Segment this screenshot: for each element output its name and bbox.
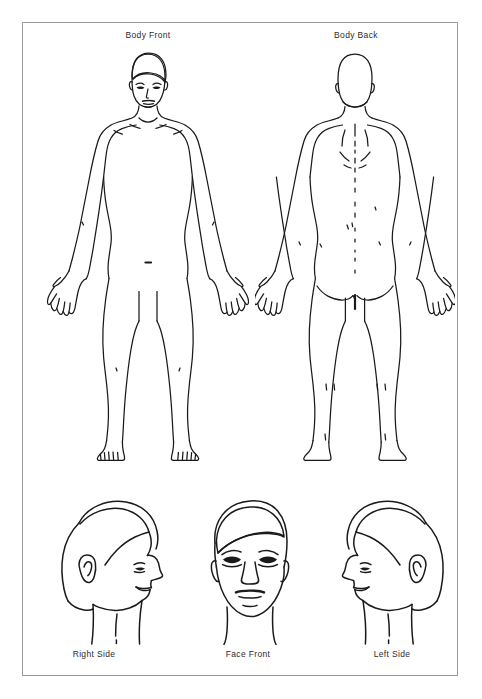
right-neck-front xyxy=(139,601,142,644)
neck-base-icon xyxy=(139,118,157,122)
back-leg-left-outer xyxy=(309,279,315,441)
neck-back-left xyxy=(338,107,345,119)
left-lower-eyelid xyxy=(361,572,371,573)
left-temple-hairline xyxy=(354,532,358,555)
left-jaw-contour xyxy=(363,601,412,611)
buttock-left-curve xyxy=(317,286,353,300)
right-temple-hairline xyxy=(147,532,151,555)
front-chin-crease-icon xyxy=(243,605,257,606)
figure-head-face-front xyxy=(198,495,302,645)
back-right-finger-1-icon xyxy=(446,287,455,305)
toe-left-2-icon xyxy=(104,453,105,460)
toe-right-3-icon xyxy=(187,452,188,460)
right-sternocleidomastoid xyxy=(116,614,117,636)
lower-lip-icon xyxy=(144,104,154,105)
front-neck-left xyxy=(224,607,227,644)
label-left-side: Left Side xyxy=(352,649,432,659)
left-hand-palm-contour xyxy=(69,279,86,314)
back-knee-right-mark-2 xyxy=(385,384,386,390)
back-foot-left xyxy=(304,441,331,461)
toe-right-2-icon xyxy=(191,453,192,460)
back-right-armpit xyxy=(368,125,400,177)
back-left-arm-outer xyxy=(275,118,338,271)
hair-front-icon xyxy=(132,53,166,82)
back-left-thumb-icon xyxy=(259,271,275,287)
scapula-right-tip xyxy=(359,165,366,168)
front-lower-eyelid-left xyxy=(223,565,242,567)
scapula-left-lower xyxy=(340,152,349,161)
eyebrow-left-icon xyxy=(136,83,144,84)
back-left-armpit xyxy=(310,125,342,177)
back-ankle-left-mark xyxy=(325,434,326,440)
label-body-back: Body Back xyxy=(316,30,396,40)
left-hand-finger-1-icon xyxy=(47,287,56,305)
left-nape-contour xyxy=(412,601,437,610)
body-front-drawing xyxy=(42,46,254,461)
left-philtrum xyxy=(354,581,355,588)
body-back-drawing xyxy=(255,46,455,461)
right-jaw-contour xyxy=(93,601,142,611)
left-ear-icon xyxy=(409,555,426,582)
leg-right-outer-contour xyxy=(187,279,193,441)
back-left-finger-1-icon xyxy=(255,287,264,305)
buttock-right-curve xyxy=(357,286,393,300)
toe-left-4-icon xyxy=(113,452,114,460)
left-eye-icon xyxy=(360,567,370,570)
torso-right-contour xyxy=(185,177,193,279)
right-hand-finger-1-icon xyxy=(239,287,248,305)
back-leg-right-outer xyxy=(395,279,401,441)
right-eye-icon xyxy=(135,567,145,570)
leg-left-inner-contour xyxy=(122,321,139,442)
eyebrow-right-icon xyxy=(153,83,161,84)
torso-left-contour xyxy=(104,177,112,279)
left-arm-inner-contour xyxy=(86,177,103,279)
right-nose-profile xyxy=(147,555,162,580)
back-left-palm-contour xyxy=(276,279,293,314)
back-dimple-left xyxy=(352,223,353,227)
front-lower-eyelid-right xyxy=(259,565,278,567)
leg-right-inner-contour xyxy=(157,321,174,442)
left-neck-back xyxy=(412,604,414,644)
toe-right-5-icon xyxy=(178,452,179,459)
right-nape-contour xyxy=(68,601,93,610)
right-neck-back xyxy=(92,604,94,644)
right-philtrum xyxy=(151,581,152,588)
figure-head-left-side xyxy=(320,495,450,645)
left-occiput-contour xyxy=(426,523,443,601)
head-outline-icon xyxy=(132,54,165,107)
right-hand-palm-contour xyxy=(210,279,227,314)
front-eye-left-icon xyxy=(223,557,241,564)
back-right-thumb-icon xyxy=(435,271,451,287)
scapula-left-tip xyxy=(344,165,351,168)
head-right-side-drawing xyxy=(55,495,185,645)
neck-back-right xyxy=(365,107,372,119)
elbow-right-crease-icon xyxy=(213,222,215,225)
right-hand-thumb-icon xyxy=(227,271,243,287)
eye-left-icon xyxy=(137,86,145,89)
left-nose-profile xyxy=(342,555,357,580)
right-arm-inner-contour xyxy=(192,177,209,279)
back-side-right-mark xyxy=(375,207,376,210)
back-foot-right xyxy=(379,441,406,461)
front-nostril-base-icon xyxy=(243,583,256,584)
back-leg-right-inner xyxy=(365,321,382,442)
head-back-outline-icon xyxy=(338,54,372,107)
front-eyebrow-right-icon xyxy=(259,551,278,555)
back-leg-left-inner xyxy=(329,321,346,442)
right-ear-inner-icon xyxy=(84,562,92,576)
right-occiput-contour xyxy=(62,523,79,601)
back-knee-left-mark-2 xyxy=(334,384,335,390)
label-body-front: Body Front xyxy=(108,30,188,40)
scapula-right-lower xyxy=(361,152,370,161)
back-left-arm-inner xyxy=(276,177,293,279)
back-right-palm-contour xyxy=(417,279,434,314)
right-hair-sweep-icon xyxy=(80,508,149,565)
left-hand-thumb-icon xyxy=(53,271,69,287)
scapula-right-upper xyxy=(365,130,368,146)
foot-left-outline xyxy=(97,441,124,461)
label-right-side: Right Side xyxy=(54,649,134,659)
back-ankle-right-mark xyxy=(385,434,386,440)
front-nose-left-icon xyxy=(241,562,245,583)
label-face-front: Face Front xyxy=(208,649,288,659)
foot-right-outline xyxy=(171,441,198,461)
